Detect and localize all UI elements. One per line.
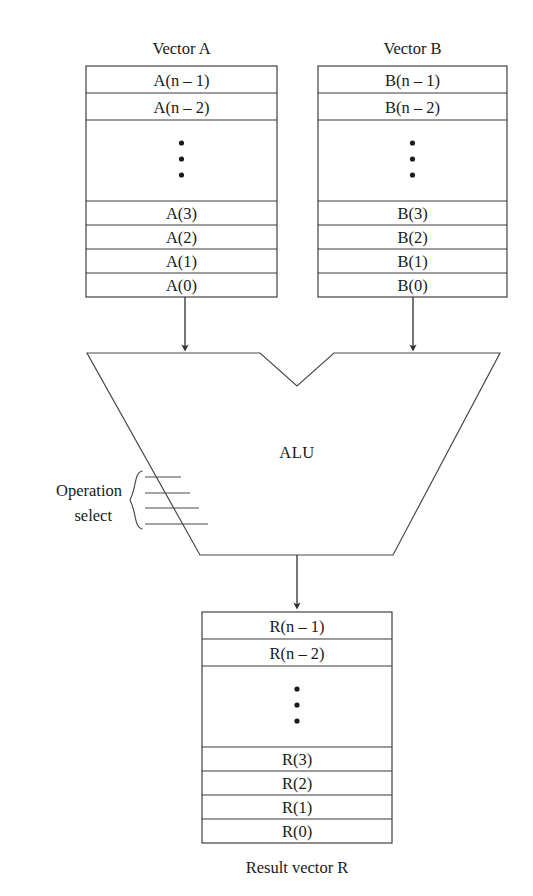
vector-a-cell: A(2) — [166, 228, 197, 247]
diagram-canvas: Vector A A(n – 1) A(n – 2) A(3) A(2) A(1… — [0, 0, 533, 896]
result-vector-cell: R(1) — [282, 798, 312, 817]
vector-alu-figure: Vector A A(n – 1) A(n – 2) A(3) A(2) A(1… — [0, 0, 533, 896]
vector-b-cell: B(0) — [397, 276, 427, 295]
vector-b-cell: B(n – 1) — [385, 71, 440, 90]
vector-a-cell: A(n – 1) — [154, 71, 210, 90]
result-vector-cell: R(n – 1) — [270, 617, 325, 636]
result-vector-cell: R(3) — [282, 750, 312, 769]
result-vector-cell: R(n – 2) — [270, 644, 325, 663]
vector-a-cell: A(n – 2) — [154, 98, 210, 117]
vector-b-cell: B(3) — [397, 204, 427, 223]
operation-select-label-line2: select — [74, 506, 112, 525]
vector-b-cell: B(n – 2) — [385, 98, 440, 117]
vector-a-cell: A(0) — [166, 276, 197, 295]
vector-b-cell: B(2) — [397, 228, 427, 247]
result-vector-caption: Result vector R — [246, 858, 349, 877]
vector-a-title: Vector A — [152, 39, 210, 58]
vector-b-title: Vector B — [383, 39, 441, 58]
alu-label: ALU — [279, 443, 315, 462]
vector-b-group: Vector B B(n – 1) B(n – 2) B(3) B(2) B(1… — [318, 39, 507, 297]
vector-a-group: Vector A A(n – 1) A(n – 2) A(3) A(2) A(1… — [86, 39, 277, 297]
curly-brace-icon — [130, 471, 142, 529]
vector-b-cell: B(1) — [397, 252, 427, 271]
result-vector-cell: R(0) — [282, 822, 312, 841]
result-vector-cell: R(2) — [282, 774, 312, 793]
vector-a-cell: A(1) — [166, 252, 197, 271]
vector-a-cell: A(3) — [166, 204, 197, 223]
result-vector-group: R(n – 1) R(n – 2) R(3) R(2) R(1) R(0) Re… — [202, 612, 392, 877]
operation-select-label-line1: Operation — [56, 481, 122, 500]
